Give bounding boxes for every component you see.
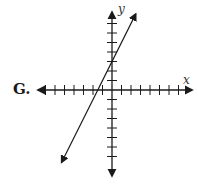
coordinate-graph [0, 0, 198, 187]
plotted-line [62, 14, 136, 162]
